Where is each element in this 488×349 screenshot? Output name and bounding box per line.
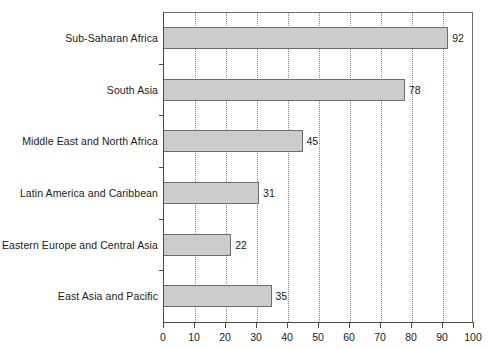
bar <box>163 182 259 204</box>
bar-value-label: 35 <box>272 285 288 307</box>
x-axis-tick-label: 80 <box>405 331 417 343</box>
x-axis: 0102030405060708090100 <box>163 322 474 323</box>
x-axis-tick <box>411 323 412 328</box>
x-axis-tick-label: 10 <box>188 331 200 343</box>
y-axis-tick <box>159 64 164 65</box>
x-axis-tick <box>442 323 443 328</box>
category-label: Middle East and North Africa <box>0 135 158 147</box>
category-label: Latin America and Caribbean <box>0 187 158 199</box>
y-axis-tick <box>159 270 164 271</box>
y-axis-tick <box>159 115 164 116</box>
bar <box>163 130 303 152</box>
x-axis-tick <box>163 323 164 328</box>
x-axis-tick-label: 60 <box>343 331 355 343</box>
bar <box>163 234 231 256</box>
x-axis-tick-label: 20 <box>219 331 231 343</box>
bar <box>163 285 272 307</box>
category-label: East Asia and Pacific <box>0 290 158 302</box>
category-axis-labels: Sub-Saharan AfricaSouth AsiaMiddle East … <box>0 12 158 322</box>
x-axis-tick <box>380 323 381 328</box>
x-axis-tick <box>287 323 288 328</box>
bar-value-label: 31 <box>259 182 275 204</box>
category-label: Sub-Saharan Africa <box>0 32 158 44</box>
x-axis-tick-label: 50 <box>312 331 324 343</box>
bar-value-label: 45 <box>303 130 319 152</box>
bar-value-label: 92 <box>448 27 464 49</box>
x-axis-tick-label: 40 <box>281 331 293 343</box>
bar <box>163 27 448 49</box>
bar-chart: Sub-Saharan AfricaSouth AsiaMiddle East … <box>0 0 488 349</box>
bar <box>163 79 405 101</box>
y-axis-tick <box>159 219 164 220</box>
y-axis-tick <box>159 167 164 168</box>
category-label: South Asia <box>0 84 158 96</box>
category-label: Eastern Europe and Central Asia <box>0 239 158 251</box>
x-axis-tick <box>349 323 350 328</box>
x-axis-tick-label: 70 <box>374 331 386 343</box>
x-axis-tick <box>318 323 319 328</box>
y-axis <box>163 12 164 323</box>
bar-value-label: 22 <box>231 234 247 256</box>
bar-series: 927845312235 <box>163 12 473 322</box>
x-axis-tick-label: 30 <box>250 331 262 343</box>
x-axis-tick-label: 90 <box>436 331 448 343</box>
x-axis-tick-label: 0 <box>160 331 166 343</box>
x-axis-tick-label: 100 <box>464 331 482 343</box>
x-axis-tick <box>473 323 474 328</box>
x-axis-tick <box>225 323 226 328</box>
x-axis-tick <box>194 323 195 328</box>
bar-value-label: 78 <box>405 79 421 101</box>
x-axis-tick <box>256 323 257 328</box>
